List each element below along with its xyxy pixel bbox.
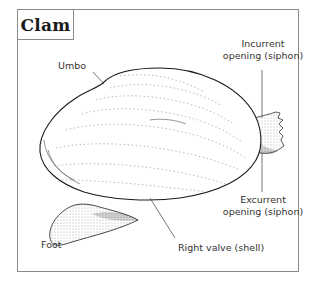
label-foot: Foot <box>41 239 61 251</box>
diagram-title: Clam <box>21 15 71 35</box>
label-incurrent-line2: opening (siphon) <box>222 50 304 62</box>
label-right-valve: Right valve (shell) <box>178 242 264 254</box>
label-excurrent-line1: Excurrent <box>222 194 304 206</box>
label-umbo: Umbo <box>58 60 86 72</box>
label-incurrent-opening: Incurrent opening (siphon) <box>222 38 304 62</box>
right-valve-shape <box>40 68 261 200</box>
label-excurrent-line2: opening (siphon) <box>222 206 304 218</box>
foot-shape <box>50 204 138 245</box>
title-box: Clam <box>17 9 74 40</box>
label-incurrent-line1: Incurrent <box>222 38 304 50</box>
label-excurrent-opening: Excurrent opening (siphon) <box>222 194 304 218</box>
